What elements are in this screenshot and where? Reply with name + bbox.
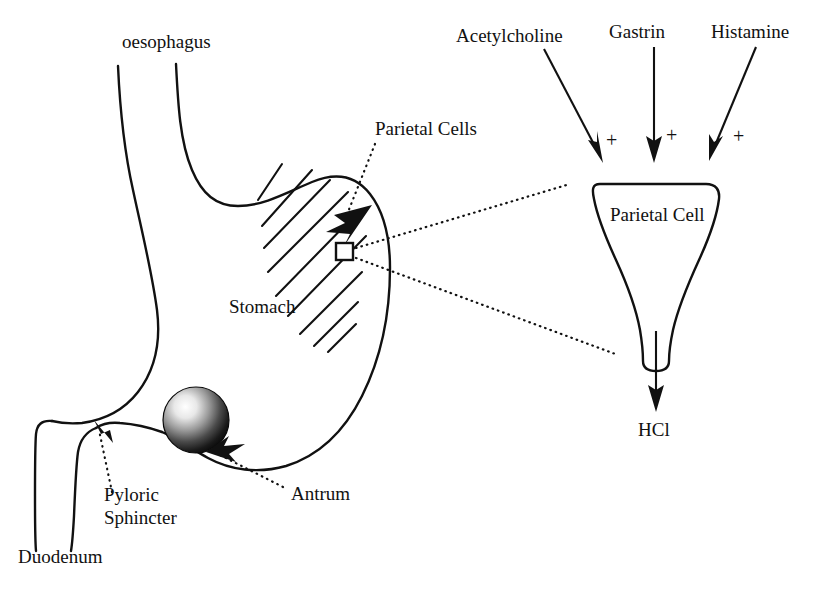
duodenum-left-wall (35, 421, 52, 551)
leader-lines-group (99, 144, 375, 492)
antrum-lower-wall (96, 423, 162, 432)
stimulant-arrows-group (544, 47, 756, 163)
histamine-arrowhead (709, 134, 723, 161)
duodenum-right-wall (71, 428, 96, 551)
label-pyloric: Pyloric (104, 484, 159, 505)
label-parietal-cells: Parietal Cells (375, 118, 477, 139)
label-parietal-cell: Parietal Cell (610, 204, 704, 225)
label-histamine: Histamine (711, 21, 789, 42)
label-acetylcholine: Acetylcholine (456, 25, 563, 46)
plus-sign-histamine: + (733, 125, 744, 147)
magnification-lines-group (356, 184, 618, 355)
label-antrum: Antrum (291, 483, 350, 504)
label-oesophagus: oesophagus (122, 31, 211, 52)
magnify-line-lower (356, 258, 618, 355)
label-stomach: Stomach (229, 296, 296, 317)
parietal-cells-arrowhead (326, 205, 372, 246)
stomach-parietal-cell-diagram: oesophagus Stomach Parietal Cells Pylori… (0, 0, 819, 591)
acetylcholine-arrow-shaft (544, 49, 598, 152)
stomach-organ-group (35, 64, 390, 551)
diagram-canvas: oesophagus Stomach Parietal Cells Pylori… (0, 0, 819, 591)
magnified-region-marker (336, 243, 353, 260)
label-sphincter: Sphincter (104, 507, 177, 528)
magnify-line-upper (356, 184, 570, 248)
label-duodenum: Duodenum (18, 546, 103, 567)
plus-sign-gastrin: + (666, 124, 677, 146)
oesophagus-left-wall (52, 66, 158, 423)
parietal-cells-leader (348, 144, 375, 212)
plus-sign-acetylcholine: + (606, 129, 617, 151)
label-gastrin: Gastrin (609, 21, 665, 42)
label-hcl: HCl (638, 419, 670, 440)
